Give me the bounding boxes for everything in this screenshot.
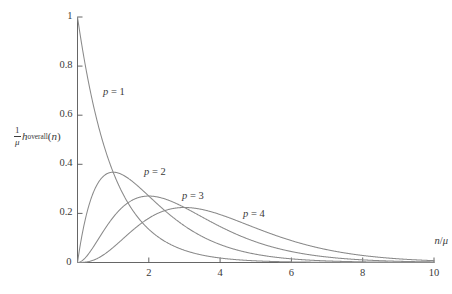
h-subscript: overall <box>28 133 48 140</box>
curve-label-eq: = <box>149 166 160 177</box>
curves-group <box>78 17 435 263</box>
x-axis-title: n/μ <box>435 235 448 246</box>
y-tick-label-1: 1 <box>0 10 73 21</box>
ticks-group <box>78 17 435 263</box>
y-tick-label-0.6: 0.6 <box>0 108 73 119</box>
curve-label-value: 2 <box>160 166 165 177</box>
curve-label-p-1: p = 1 <box>103 86 125 97</box>
curve-label-eq: = <box>187 190 198 201</box>
curve-p-1 <box>78 17 435 262</box>
x-tick-label-6: 6 <box>271 267 311 278</box>
y-tick-label-0.8: 0.8 <box>0 59 73 70</box>
one-over-mu-fraction: 1 μ <box>14 126 21 147</box>
y-axis-title: 1 μ hoverall(n) <box>14 126 61 147</box>
curve-label-value: 3 <box>198 190 203 201</box>
axes-group <box>78 17 435 263</box>
x-tick-label-8: 8 <box>343 267 383 278</box>
y-tick-label-0.2: 0.2 <box>0 206 73 217</box>
curve-label-p-3: p = 3 <box>182 190 204 201</box>
x-tick-label-2: 2 <box>129 267 169 278</box>
curve-label-value: 4 <box>259 208 264 219</box>
curve-label-p-2: p = 2 <box>144 166 166 177</box>
x-tick-label-4: 4 <box>200 267 240 278</box>
curve-label-eq: = <box>108 86 119 97</box>
curve-p-3 <box>78 196 435 262</box>
origin-label: 0 <box>0 256 72 267</box>
close-paren: ) <box>57 131 61 142</box>
erlang-density-figure: 0 0.2 0.4 0.6 0.8 1 2 4 6 8 10 1 μ hover… <box>0 0 452 294</box>
curve-label-value: 1 <box>119 86 124 97</box>
figure-caption <box>64 287 444 294</box>
fraction-denominator: μ <box>14 138 21 147</box>
curve-label-eq: = <box>248 208 259 219</box>
fraction-numerator: 1 <box>14 126 21 135</box>
y-tick-label-0.4: 0.4 <box>0 157 73 168</box>
curve-label-p-4: p = 4 <box>243 208 265 219</box>
x-tick-label-10: 10 <box>414 267 452 278</box>
x-title-denominator: μ <box>443 235 448 246</box>
plot-canvas <box>0 0 452 294</box>
